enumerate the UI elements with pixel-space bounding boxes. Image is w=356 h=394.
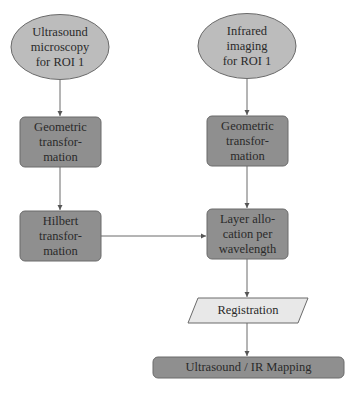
hilbert-node: Hilbert transfor- mation <box>20 211 101 261</box>
mapping-node: Ultrasound / IR Mapping <box>153 357 344 378</box>
geo-left-node: Geometric transfor- mation <box>20 117 101 167</box>
ir-imaging-node: Infrared imaging for ROI 1 <box>198 14 296 79</box>
us-microscopy-node: Ultrasound microscopy for ROI 1 <box>11 15 109 80</box>
geo-right-node: Geometric transfor- mation <box>207 116 288 166</box>
registration-label: Registration <box>217 303 278 318</box>
geo-right-label: Geometric transfor- mation <box>221 119 274 164</box>
mapping-label: Ultrasound / IR Mapping <box>185 360 311 375</box>
ir-imaging-label: Infrared imaging for ROI 1 <box>223 24 272 69</box>
geo-left-label: Geometric transfor- mation <box>34 120 87 165</box>
layer-alloc-label: Layer allo- cation per wavelength <box>219 212 277 257</box>
registration-node: Registration <box>188 298 308 323</box>
layer-alloc-node: Layer allo- cation per wavelength <box>207 209 288 259</box>
hilbert-label: Hilbert transfor- mation <box>39 214 82 259</box>
us-microscopy-label: Ultrasound microscopy for ROI 1 <box>31 25 89 70</box>
